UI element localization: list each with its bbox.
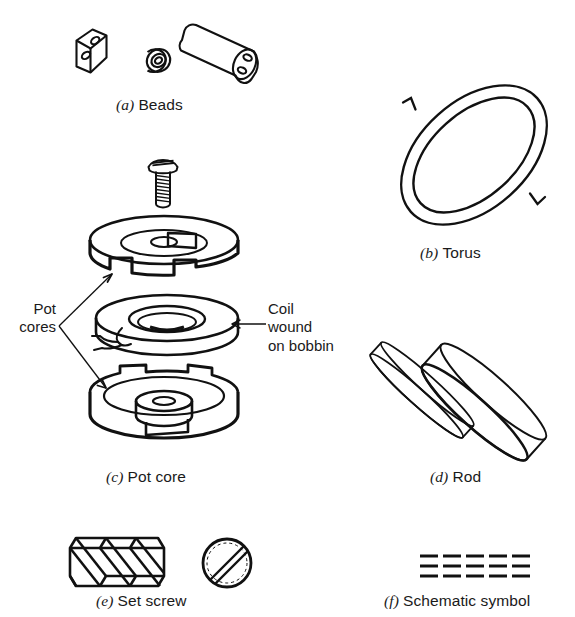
caption-label-e: Set screw: [118, 592, 187, 609]
figure-ferrite-core-shapes: (a)Beads (b)Torus: [0, 0, 575, 617]
schematic-symbol-dashes: [418, 552, 532, 586]
torus-ring: [376, 80, 575, 240]
set-screw-side-view: [62, 534, 172, 590]
caption-beads: (a)Beads: [116, 96, 183, 114]
caption-tag-e: (e): [96, 592, 118, 609]
caption-set-screw: (e)Set screw: [96, 592, 186, 610]
coil-leader-arrow: [228, 316, 268, 332]
caption-tag-f: (f): [384, 592, 403, 609]
pot-cores-leader-lines: [56, 268, 134, 400]
caption-tag-b: (b): [420, 244, 442, 261]
caption-rod: (d)Rod: [430, 468, 481, 486]
caption-label-c: Pot core: [128, 468, 187, 485]
caption-tag-a: (a): [116, 96, 138, 113]
rod-thick: [404, 332, 564, 472]
bead-cylindrical-two-hole: [172, 18, 276, 92]
bead-two-hole-oblong: [62, 24, 122, 86]
caption-label-b: Torus: [442, 244, 480, 261]
caption-schematic-symbol: (f)Schematic symbol: [384, 592, 530, 610]
caption-pot-core: (c)Pot core: [106, 468, 186, 486]
caption-tag-c: (c): [106, 468, 128, 485]
caption-tag-d: (d): [430, 468, 452, 485]
set-screw-end-view: [198, 534, 256, 592]
caption-torus: (b)Torus: [420, 244, 481, 262]
caption-label-a: Beads: [138, 96, 182, 113]
pan-head-screw: [142, 156, 184, 218]
caption-label-d: Rod: [452, 468, 481, 485]
annotation-pot-cores: Pot cores: [2, 300, 56, 337]
caption-label-f: Schematic symbol: [403, 592, 530, 609]
